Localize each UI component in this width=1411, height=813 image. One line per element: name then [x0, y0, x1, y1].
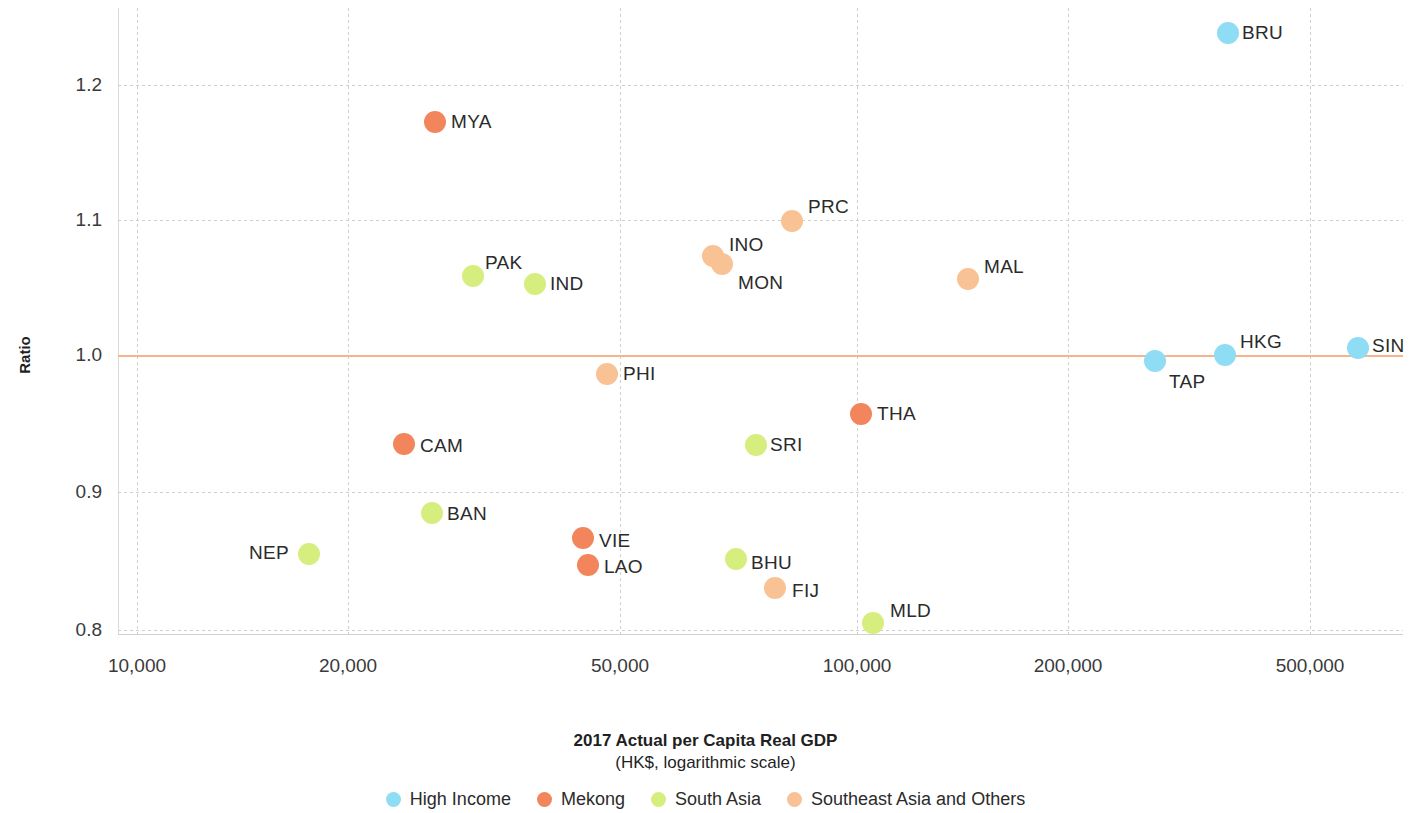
data-point-tap[interactable]: [1144, 350, 1166, 372]
data-point-label-hkg: HKG: [1240, 331, 1282, 353]
x-axis-tick-labels: 10,00020,00050,000100,000200,000500,000: [0, 655, 1411, 695]
gridline-vertical: [348, 8, 349, 635]
data-point-label-mld: MLD: [890, 600, 931, 622]
data-point-label-pak: PAK: [485, 252, 523, 274]
data-point-label-ind: IND: [550, 273, 584, 295]
y-tick-label: 0.8: [76, 619, 102, 641]
legend-item-mekong[interactable]: Mekong: [537, 789, 625, 810]
gridline-vertical: [137, 8, 138, 635]
x-tick-label: 500,000: [1276, 655, 1345, 677]
reference-line-ratio-1: [118, 355, 1403, 357]
data-point-sin[interactable]: [1347, 337, 1369, 359]
gridline-horizontal: [118, 220, 1403, 221]
data-point-phi[interactable]: [596, 363, 618, 385]
data-point-bru[interactable]: [1217, 22, 1239, 44]
data-point-label-mal: MAL: [984, 256, 1024, 278]
data-point-label-tha: THA: [877, 403, 916, 425]
data-point-label-phi: PHI: [623, 363, 656, 385]
legend-marker-icon: [787, 792, 802, 807]
data-point-pak[interactable]: [462, 265, 484, 287]
data-point-ban[interactable]: [421, 502, 443, 524]
x-tick-label: 10,000: [108, 655, 166, 677]
gridline-vertical: [857, 8, 858, 635]
legend-label: Mekong: [561, 789, 625, 810]
legend-item-south-asia[interactable]: South Asia: [651, 789, 761, 810]
plot-area: BRUMYAPRCINOMONPAKINDMALHKGSINTAPPHITHAS…: [118, 8, 1403, 635]
x-tick-label: 20,000: [319, 655, 377, 677]
y-tick-label: 1.1: [76, 209, 102, 231]
data-point-label-bhu: BHU: [751, 552, 792, 574]
data-point-mld[interactable]: [862, 612, 884, 634]
x-tick-label: 50,000: [591, 655, 649, 677]
data-point-ind[interactable]: [524, 273, 546, 295]
data-point-fij[interactable]: [764, 577, 786, 599]
plot-left-axis-line: [118, 8, 119, 635]
x-axis-title-line1: 2017 Actual per Capita Real GDP: [0, 730, 1411, 752]
y-tick-label: 0.9: [76, 481, 102, 503]
gridline-horizontal: [118, 492, 1403, 493]
y-tick-label: 1.2: [76, 74, 102, 96]
legend-item-high-income[interactable]: High Income: [386, 789, 511, 810]
y-axis-tick-labels: 1.21.11.00.90.8: [0, 0, 118, 640]
gridline-vertical: [1068, 8, 1069, 635]
data-point-label-mya: MYA: [451, 111, 492, 133]
legend-marker-icon: [537, 792, 552, 807]
legend-label: South Asia: [675, 789, 761, 810]
legend: High IncomeMekongSouth AsiaSoutheast Asi…: [0, 789, 1411, 810]
data-point-lao[interactable]: [577, 554, 599, 576]
x-tick-label: 100,000: [823, 655, 892, 677]
data-point-hkg[interactable]: [1214, 344, 1236, 366]
data-point-cam[interactable]: [393, 433, 415, 455]
y-tick-label: 1.0: [76, 344, 102, 366]
x-axis-title-line2: (HK$, logarithmic scale): [0, 752, 1411, 774]
legend-label: Southeast Asia and Others: [811, 789, 1025, 810]
data-point-label-bru: BRU: [1242, 22, 1283, 44]
data-point-label-nep: NEP: [249, 542, 289, 564]
data-point-label-vie: VIE: [599, 530, 631, 552]
x-axis-title: 2017 Actual per Capita Real GDP (HK$, lo…: [0, 730, 1411, 774]
scatter-chart: Ratio 1.21.11.00.90.8 BRUMYAPRCINOMONPAK…: [0, 0, 1411, 813]
legend-item-southeast-asia-and-others[interactable]: Southeast Asia and Others: [787, 789, 1025, 810]
data-point-nep[interactable]: [298, 543, 320, 565]
data-point-vie[interactable]: [572, 527, 594, 549]
data-point-prc[interactable]: [781, 210, 803, 232]
data-point-label-prc: PRC: [808, 196, 849, 218]
data-point-label-lao: LAO: [604, 556, 643, 578]
data-point-label-cam: CAM: [420, 435, 463, 457]
data-point-label-fij: FIJ: [792, 580, 819, 602]
data-point-label-ban: BAN: [447, 503, 487, 525]
data-point-mya[interactable]: [424, 111, 446, 133]
data-point-bhu[interactable]: [725, 548, 747, 570]
data-point-tha[interactable]: [850, 403, 872, 425]
data-point-label-tap: TAP: [1169, 371, 1205, 393]
gridline-vertical: [1310, 8, 1311, 635]
data-point-sri[interactable]: [745, 434, 767, 456]
data-point-mon[interactable]: [711, 253, 733, 275]
gridline-horizontal: [118, 630, 1403, 631]
gridline-horizontal: [118, 85, 1403, 86]
legend-marker-icon: [651, 792, 666, 807]
plot-bottom-axis-line: [118, 634, 1403, 635]
legend-marker-icon: [386, 792, 401, 807]
data-point-label-ino: INO: [729, 234, 764, 256]
legend-label: High Income: [410, 789, 511, 810]
data-point-label-sin: SIN: [1372, 335, 1405, 357]
x-tick-label: 200,000: [1034, 655, 1103, 677]
data-point-label-mon: MON: [738, 272, 783, 294]
data-point-label-sri: SRI: [770, 434, 803, 456]
data-point-mal[interactable]: [957, 268, 979, 290]
